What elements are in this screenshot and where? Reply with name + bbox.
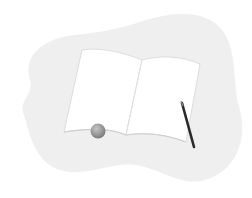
gray-ball-icon xyxy=(91,124,106,139)
notebook-illustration xyxy=(0,0,252,198)
